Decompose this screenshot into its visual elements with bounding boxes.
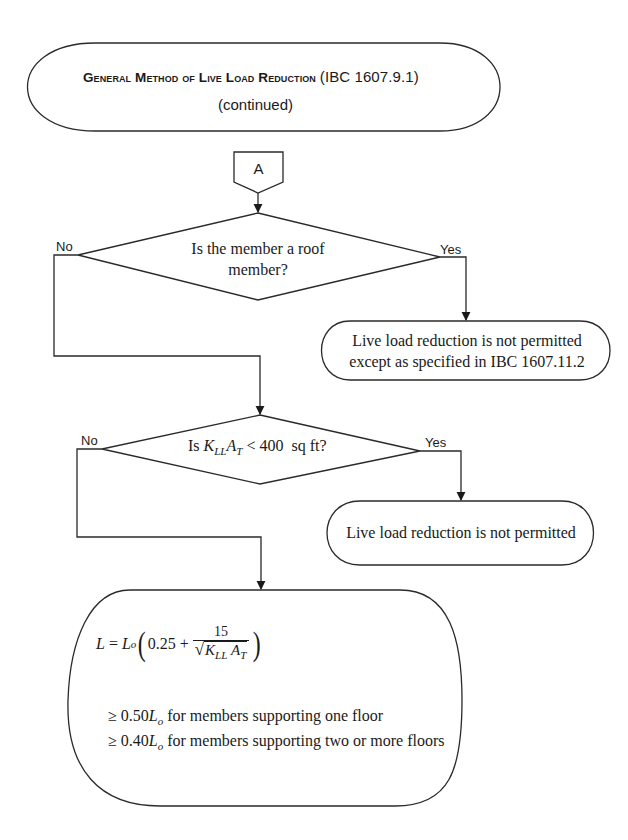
eq-denominator: √KLL AT [193,640,250,664]
decision2-suffix: < 400 sq ft? [246,437,326,454]
eq-const: 0.25 + [148,635,189,653]
decision2-no-label: No [81,433,98,448]
sub-T: T [236,445,242,457]
sub-LL: LL [214,445,226,457]
eq-radicand: KLL AT [204,641,247,658]
decision2-no-path [77,449,261,589]
decision2-yes-label: Yes [425,435,446,450]
terminal1-text: Live load reduction is not permitted exc… [322,330,612,372]
terminal2-text: Live load reduction is not permitted [327,522,595,543]
var-A: A [226,437,236,454]
limit1-text: for members supporting one floor [167,707,383,724]
decision1-question-line1: Is the member a roof [148,238,368,259]
eq-A: A [231,642,240,658]
terminal1-line1: Live load reduction is not permitted [322,330,612,351]
title-terminator-shape [28,43,501,131]
sqrt-icon: √ [195,640,204,659]
limit2-text: for members supporting two or more floor… [167,732,444,749]
eq-fraction: 15 √KLL AT [193,624,250,664]
eq-K: K [205,642,215,658]
eq-close-paren: ) [253,629,261,659]
limit1-symbol: ≥ 0.50 [108,707,149,724]
title-main: General Method of Live Load Reduction [83,70,316,85]
decision2-prefix: Is [188,437,200,454]
diagram-title: General General Method of Live Load Redu… [83,68,419,85]
eq-sub-LL: LL [215,649,227,661]
result-limit-2: ≥ 0.40Lo for members supporting two or m… [108,732,444,752]
offpage-connector-label: A [234,160,283,177]
decision1-yes-label: Yes [440,242,461,257]
eq-open-paren: ( [138,629,146,659]
eq-numerator: 15 [212,624,230,640]
limit2-var: L [149,732,158,749]
title-reference: (IBC 1607.9.1) [320,68,419,85]
limit2-symbol: ≥ 0.40 [108,732,149,749]
diagram-subtitle: (continued) [218,96,293,113]
result-equation: L = Lo ( 0.25 + 15 √KLL AT ) [96,624,263,664]
limit2-sub: o [158,740,164,752]
decision2-yes-path [420,451,461,500]
limit1-sub: o [158,715,164,727]
decision1-yes-path [440,257,466,320]
decision2-question: Is KLLAT < 400 sq ft? [188,437,327,457]
result-limit-1: ≥ 0.50Lo for members supporting one floo… [108,707,383,727]
limit1-var: L [149,707,158,724]
eq-L: L [122,635,131,653]
eq-sub-T: T [240,649,246,661]
eq-equals: = [109,635,118,653]
decision1-no-label: No [56,239,73,254]
eq-sub-o: o [131,638,137,650]
result-box-shape [68,590,462,806]
eq-lhs: L [96,635,105,653]
decision1-question-line2: member? [148,259,368,280]
decision1-question: Is the member a roof member? [148,238,368,280]
var-K: K [204,437,215,454]
terminal1-line2: except as specified in IBC 1607.11.2 [322,351,612,372]
